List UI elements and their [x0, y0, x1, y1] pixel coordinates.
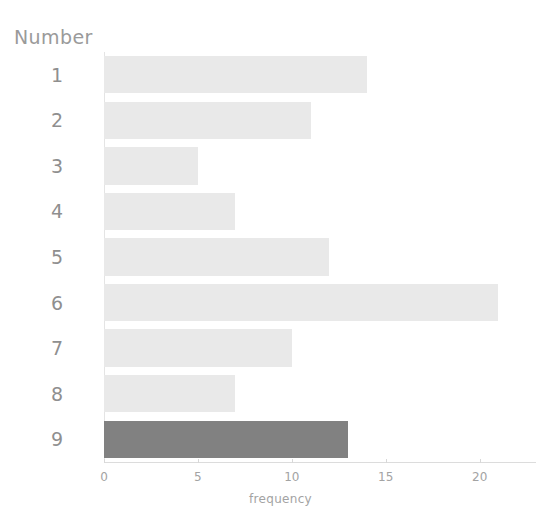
bar-row	[104, 238, 536, 275]
y-tick-label-7: 7	[14, 337, 100, 359]
plot-area	[104, 52, 536, 462]
bar-row	[104, 102, 536, 139]
bar-5[interactable]	[104, 238, 329, 275]
x-tick-label-5: 5	[194, 470, 202, 484]
x-tick-label-20: 20	[472, 470, 487, 484]
bar-9[interactable]	[104, 421, 348, 458]
bar-row	[104, 56, 536, 93]
x-tick-label-10: 10	[284, 470, 299, 484]
y-tick-label-6: 6	[14, 292, 100, 314]
bar-7[interactable]	[104, 329, 292, 366]
x-tick-label-0: 0	[100, 470, 108, 484]
bar-4[interactable]	[104, 193, 235, 230]
x-tick-label-15: 15	[378, 470, 393, 484]
bar-row	[104, 147, 536, 184]
bar-8[interactable]	[104, 375, 235, 412]
x-axis-title-text: frequency	[249, 492, 312, 506]
x-tick-mark-10	[292, 459, 293, 463]
y-axis-title: Number	[14, 26, 93, 48]
y-tick-label-2: 2	[14, 109, 100, 131]
y-tick-label-5: 5	[14, 246, 100, 268]
y-tick-label-1: 1	[14, 64, 100, 86]
y-tick-label-4: 4	[14, 200, 100, 222]
x-axis-line	[104, 462, 536, 463]
bar-row	[104, 284, 536, 321]
x-tick-mark-20	[480, 459, 481, 463]
y-tick-label-9: 9	[14, 428, 100, 450]
x-axis-title: frequency	[0, 492, 541, 506]
bar-row	[104, 375, 536, 412]
bar-chart: Number frequency 12345678905101520	[0, 0, 541, 530]
bar-row	[104, 193, 536, 230]
bar-6[interactable]	[104, 284, 498, 321]
bar-row	[104, 329, 536, 366]
bar-row	[104, 421, 536, 458]
y-tick-label-3: 3	[14, 155, 100, 177]
x-tick-mark-5	[198, 459, 199, 463]
y-tick-label-8: 8	[14, 383, 100, 405]
x-tick-mark-0	[104, 459, 105, 463]
x-tick-mark-15	[386, 459, 387, 463]
bar-2[interactable]	[104, 102, 311, 139]
bar-1[interactable]	[104, 56, 367, 93]
bar-3[interactable]	[104, 147, 198, 184]
